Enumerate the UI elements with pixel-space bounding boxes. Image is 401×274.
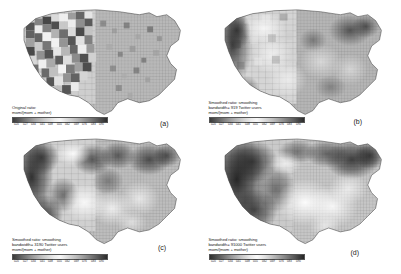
- tick: 0.20: [209, 260, 217, 264]
- tick: 0.83: [286, 123, 294, 127]
- legend-d: Smoothed ratio: smoothing bandwidth= 910…: [209, 237, 305, 264]
- tick: 0.20: [12, 260, 20, 264]
- tick: 0.55: [55, 260, 63, 264]
- tick: 0.41: [235, 260, 243, 264]
- tick: 0.27: [217, 123, 225, 127]
- tick: 0.27: [21, 260, 29, 264]
- tick: 0.55: [252, 260, 260, 264]
- panel-a: Original ratio: mom/(mom + mother) 0.20 …: [0, 0, 201, 137]
- tick: 0.48: [47, 123, 55, 127]
- tick: 0.41: [38, 123, 46, 127]
- tick: 0.62: [260, 260, 268, 264]
- tick: 0.55: [252, 123, 260, 127]
- tick: 0.48: [243, 123, 251, 127]
- tick: 0.62: [64, 123, 72, 127]
- colorbar-ticks-d: 0.20 0.27 0.34 0.41 0.48 0.55 0.62 0.69 …: [209, 260, 303, 264]
- tick: 0.76: [277, 123, 285, 127]
- tick: 0.90: [98, 260, 106, 264]
- panel-c: Smoothed ratio: smoothing bandwidth= 319…: [0, 137, 201, 274]
- tick: 0.55: [55, 123, 63, 127]
- tick: 0.20: [12, 123, 20, 127]
- legend-d-line-2: mom/(mom + mother): [209, 247, 305, 252]
- tick: 0.69: [269, 123, 277, 127]
- tick: 0.90: [98, 123, 106, 127]
- tick: 0.83: [286, 260, 294, 264]
- legend-a: Original ratio: mom/(mom + mother) 0.20 …: [12, 105, 108, 127]
- tick: 0.41: [38, 260, 46, 264]
- tick: 0.90: [294, 260, 302, 264]
- tick: 0.34: [226, 260, 234, 264]
- tick: 0.34: [226, 123, 234, 127]
- tick: 0.48: [243, 260, 251, 264]
- colorbar-ticks-c: 0.20 0.27 0.34 0.41 0.48 0.55 0.62 0.69 …: [12, 260, 106, 264]
- tick: 0.69: [269, 260, 277, 264]
- tick: 0.34: [30, 260, 38, 264]
- tick: 0.83: [89, 260, 97, 264]
- panel-b: Smoothed ratio: smoothing bandwidth= 919…: [201, 0, 401, 137]
- figure-grid: Original ratio: mom/(mom + mother) 0.20 …: [0, 0, 401, 274]
- tick: 0.34: [30, 123, 38, 127]
- tick: 0.76: [81, 260, 89, 264]
- tick: 0.48: [47, 260, 55, 264]
- tick: 0.69: [72, 260, 80, 264]
- legend-b-line-2: mom/(mom + mother): [209, 110, 305, 115]
- tick: 0.27: [217, 260, 225, 264]
- panel-label-a: (a): [160, 120, 169, 127]
- tick: 0.62: [260, 123, 268, 127]
- panel-label-c: (c): [158, 244, 166, 251]
- panel-label-d: (d): [351, 249, 360, 256]
- tick: 0.76: [81, 123, 89, 127]
- tick: 0.27: [21, 123, 29, 127]
- legend-c: Smoothed ratio: smoothing bandwidth= 319…: [12, 237, 108, 264]
- tick: 0.83: [89, 123, 97, 127]
- tick: 0.20: [209, 123, 217, 127]
- tick: 0.62: [64, 260, 72, 264]
- colorbar-ticks-b: 0.20 0.27 0.34 0.41 0.48 0.55 0.62 0.69 …: [209, 123, 303, 127]
- tick: 0.90: [294, 123, 302, 127]
- tick: 0.69: [72, 123, 80, 127]
- panel-label-b: (b): [354, 118, 363, 125]
- legend-b: Smoothed ratio: smoothing bandwidth= 919…: [209, 100, 305, 127]
- tick: 0.41: [235, 123, 243, 127]
- panel-d: Smoothed ratio: smoothing bandwidth= 910…: [201, 137, 401, 274]
- legend-c-line-2: mom/(mom + mother): [12, 247, 108, 252]
- legend-a-line-1: mom/(mom + mother): [12, 110, 108, 115]
- tick: 0.76: [277, 260, 285, 264]
- colorbar-ticks-a: 0.20 0.27 0.34 0.41 0.48 0.55 0.62 0.69 …: [12, 123, 106, 127]
